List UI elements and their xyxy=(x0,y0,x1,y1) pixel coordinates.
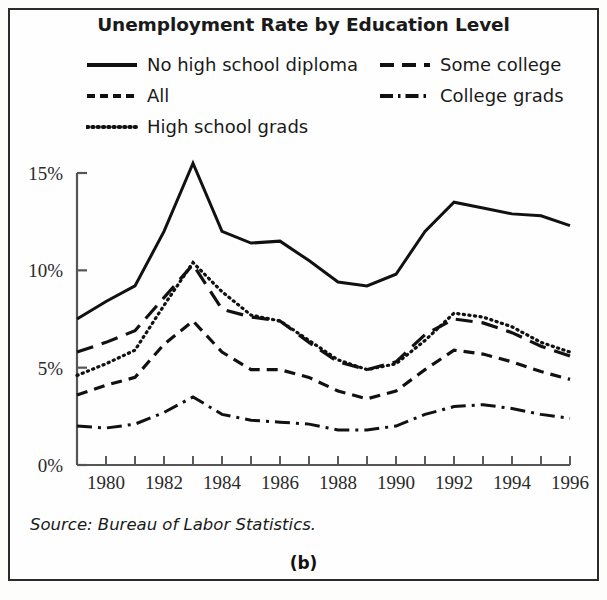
chart-series-layer xyxy=(77,163,570,430)
y-tick-label: 15% xyxy=(28,163,63,184)
x-tick-label: 1994 xyxy=(493,472,532,493)
x-tick-label: 1986 xyxy=(261,472,299,493)
chart-plot: 15%10%5%0%198019821984198619881990199219… xyxy=(0,0,607,600)
figure-panel: Unemployment Rate by Education Level No … xyxy=(0,0,607,600)
x-tick-label: 1992 xyxy=(435,472,473,493)
y-tick-label: 10% xyxy=(28,260,63,281)
series-line-no-high-school-diploma xyxy=(77,163,570,319)
y-tick-label: 0% xyxy=(38,455,64,476)
x-tick-label: 1990 xyxy=(377,472,415,493)
source-note: Source: Bureau of Labor Statistics. xyxy=(30,515,316,534)
x-tick-label: 1984 xyxy=(203,472,242,493)
chart-axes xyxy=(77,173,570,465)
series-line-high-school-grads xyxy=(77,263,570,376)
y-tick-label: 5% xyxy=(38,358,64,379)
x-tick-label: 1980 xyxy=(87,472,125,493)
series-line-all xyxy=(77,321,570,399)
x-tick-label: 1982 xyxy=(145,472,183,493)
panel-label: (b) xyxy=(0,553,607,573)
series-line-college-grads xyxy=(77,397,570,430)
x-tick-label: 1988 xyxy=(319,472,357,493)
series-line-some-college xyxy=(77,264,570,369)
x-tick-label: 1996 xyxy=(551,472,589,493)
